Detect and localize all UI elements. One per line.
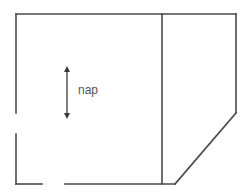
- walls: [16, 14, 236, 184]
- diagonal-wall: [175, 113, 236, 184]
- nap-label: nap: [78, 83, 98, 97]
- arrow-head-down-icon: [64, 113, 70, 119]
- arrow-head-up-icon: [64, 66, 70, 72]
- floor-plan-diagram: nap: [0, 0, 252, 196]
- nap-direction-arrow: [64, 66, 70, 119]
